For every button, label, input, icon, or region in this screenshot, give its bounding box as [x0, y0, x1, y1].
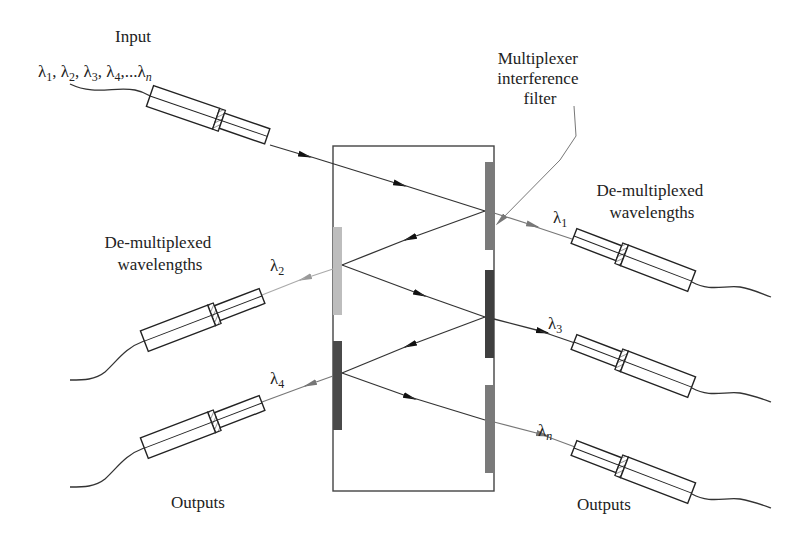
- output-connector-lambda1: [570, 226, 771, 297]
- demux-right-label: De-multiplexed wavelengths: [597, 181, 708, 222]
- outputs-right-label: Outputs: [577, 495, 631, 514]
- multiplexer-diagram: Input λ1, λ2, λ3, λ4,...λn Multiplexer i…: [0, 0, 807, 539]
- lambda3-label: λ3: [548, 314, 562, 336]
- output-connector-lambda3: [570, 332, 771, 402]
- filter-right-lambda3: [485, 270, 494, 358]
- output-connector-lambda2: [70, 286, 266, 380]
- filter-callout-label: Multiplexer interference filter: [497, 49, 582, 108]
- filter-right-lambdan: [485, 385, 494, 473]
- lambda2-label: λ2: [270, 256, 284, 278]
- outputs-left-label: Outputs: [171, 493, 225, 512]
- input-wavelength-list: λ1, λ2, λ3, λ4,...λn: [38, 62, 152, 84]
- filter-right-lambda1: [485, 162, 494, 250]
- input-title: Input: [115, 27, 151, 46]
- demux-left-label: De-multiplexed wavelengths: [105, 233, 216, 274]
- input-connector: [70, 84, 271, 147]
- lambdan-label: λn: [538, 421, 552, 443]
- beam-lambda3: [494, 319, 548, 333]
- lambda1-label: λ1: [553, 208, 567, 230]
- callout-leader: [497, 106, 576, 224]
- beam-lambda4: [305, 376, 333, 386]
- filter-left-lambda4: [333, 341, 342, 430]
- multiplexer-housing: [333, 146, 494, 491]
- output-connector-lambda4: [70, 393, 266, 487]
- lambda4-label: λ4: [270, 369, 284, 391]
- internal-beam-path: [270, 145, 485, 420]
- filter-left-lambda2: [333, 227, 342, 315]
